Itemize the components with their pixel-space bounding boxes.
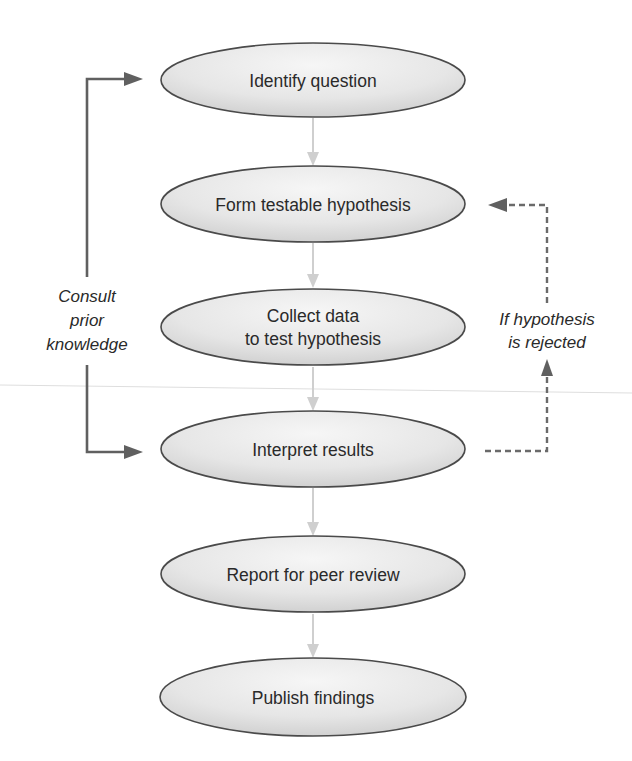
node-label: Interpret results	[252, 440, 374, 460]
consult-label-line-2: prior	[69, 311, 105, 330]
flow-arrow-hypothesis-to-collect	[307, 243, 319, 288]
loop-line-bottom	[87, 365, 128, 452]
consult-prior-knowledge-loop: Consult prior knowledge	[46, 72, 143, 459]
node-label: Report for peer review	[226, 565, 399, 585]
rejected-label-line-1: If hypothesis	[499, 310, 595, 329]
node-label: Publish findings	[252, 688, 375, 708]
node-label-line-1: Collect data	[267, 306, 360, 326]
dashed-line-to-hypothesis	[503, 205, 547, 303]
node-report-for-peer-review: Report for peer review	[161, 536, 465, 612]
hypothesis-rejected-loop: If hypothesis is rejected	[485, 198, 595, 451]
node-label: Form testable hypothesis	[215, 195, 411, 215]
node-label-line-2: to test hypothesis	[245, 329, 381, 349]
flow-arrow-identify-to-hypothesis	[307, 118, 319, 166]
arrow-head-to-interpret	[124, 445, 143, 459]
consult-label-line-1: Consult	[58, 287, 117, 306]
rejected-label-line-2: is rejected	[508, 333, 586, 352]
dashed-arrow-head-up	[541, 359, 553, 376]
node-label: Identify question	[249, 71, 376, 91]
dashed-line-from-interpret	[485, 372, 547, 451]
consult-label-line-3: knowledge	[46, 335, 127, 354]
loop-line-top	[87, 79, 128, 277]
scan-artifact-line	[0, 385, 632, 393]
node-publish-findings: Publish findings	[160, 658, 466, 736]
flow-arrow-interpret-to-report	[307, 488, 319, 536]
arrow-head-to-identify	[124, 72, 143, 86]
scientific-method-flowchart: Identify question Form testable hypothes…	[0, 0, 632, 761]
node-form-testable-hypothesis: Form testable hypothesis	[161, 166, 465, 242]
node-collect-data: Collect data to test hypothesis	[161, 289, 465, 365]
flow-arrow-report-to-publish	[307, 614, 319, 658]
node-identify-question: Identify question	[161, 43, 465, 117]
node-interpret-results: Interpret results	[161, 411, 465, 487]
dashed-arrow-head-left	[488, 198, 507, 212]
